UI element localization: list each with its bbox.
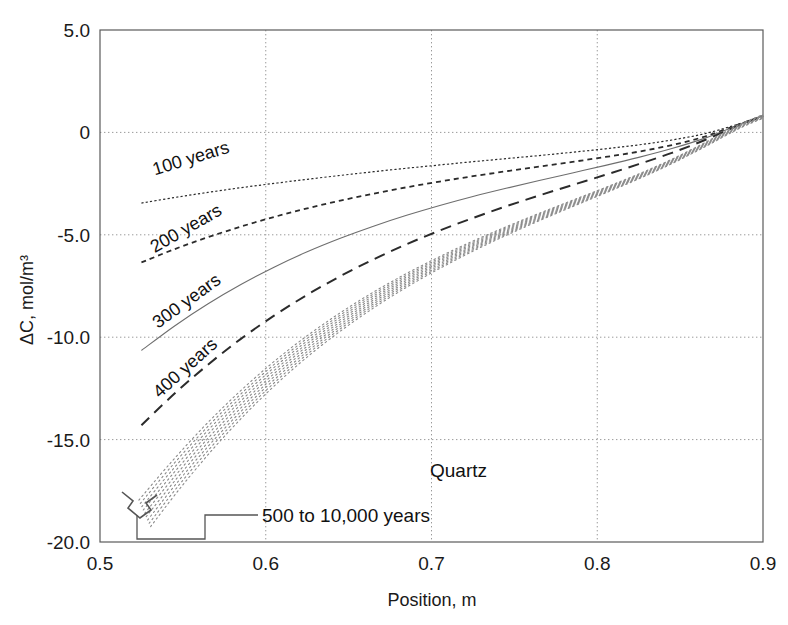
series-label-200-years: 200 years	[147, 200, 225, 257]
bundle-callout	[122, 492, 258, 539]
axis-tick-labels: 0.50.60.70.80.95.00-5.0-10.0-15.0-20.0	[47, 20, 777, 574]
y-tick-label: -15.0	[47, 430, 90, 451]
y-tick-label: -20.0	[47, 532, 90, 553]
series-label-400-years: 400 years	[149, 334, 221, 402]
x-tick-label: 0.9	[750, 553, 776, 574]
curve-bundle-member	[146, 117, 763, 517]
x-tick-label: 0.6	[253, 553, 279, 574]
curve-bundle-member	[143, 116, 763, 510]
y-tick-label: 5.0	[64, 20, 90, 41]
y-tick-label: -10.0	[47, 327, 90, 348]
chart-canvas: 100 years200 years300 years400 years 0.5…	[0, 0, 788, 625]
curve-300-years	[141, 116, 763, 351]
curve-400-years	[141, 116, 763, 425]
curve-100-years	[141, 116, 763, 203]
x-tick-label: 0.5	[87, 553, 113, 574]
y-tick-label: -5.0	[57, 225, 90, 246]
curve-bundle-member	[142, 116, 763, 507]
quartz-annotation-label: Quartz	[430, 460, 487, 481]
x-tick-label: 0.8	[584, 553, 610, 574]
curve-bundle-member	[140, 115, 762, 503]
callout-leader-line	[137, 515, 258, 539]
bundle-annotation-label: 500 to 10,000 years	[262, 505, 430, 526]
series-inline-labels: 100 years200 years300 years400 years	[147, 137, 232, 402]
curve-bundle-member	[139, 115, 762, 500]
x-axis-title: Position, m	[387, 590, 476, 610]
x-tick-label: 0.7	[418, 553, 444, 574]
curve-bundle-member	[145, 116, 763, 513]
y-axis-title: ΔC, mol/m³	[17, 255, 37, 345]
y-tick-label: 0	[79, 122, 90, 143]
series-label-100-years: 100 years	[150, 137, 231, 179]
chart-figure: 100 years200 years300 years400 years 0.5…	[0, 0, 788, 625]
